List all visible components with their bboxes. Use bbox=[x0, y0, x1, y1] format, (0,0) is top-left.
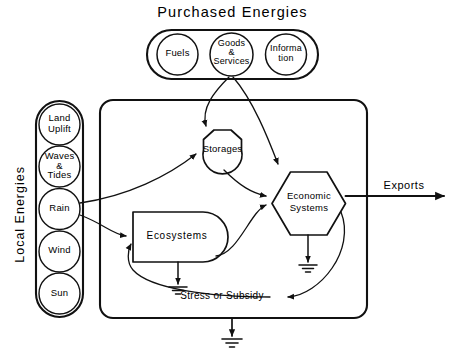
ground-symbol-economic-systems bbox=[299, 265, 317, 272]
flow-goods-to-economic-systems bbox=[233, 77, 278, 164]
information-circle bbox=[266, 34, 307, 75]
flow-goods-to-storages bbox=[205, 77, 229, 126]
sun-circle bbox=[39, 273, 80, 314]
ecosystems-producer-shape bbox=[133, 212, 228, 262]
flow-rain-to-storages bbox=[80, 154, 196, 203]
waves-and-tides-circle bbox=[39, 146, 80, 187]
purchased-energies-capsule bbox=[147, 30, 318, 79]
flow-storages-to-economic-systems bbox=[224, 170, 266, 196]
local-energies-group bbox=[36, 101, 83, 317]
ground-symbol-system bbox=[222, 339, 242, 347]
purchased-energies-group bbox=[147, 30, 318, 79]
flow-ecosystems-to-economic-systems bbox=[216, 205, 266, 256]
wind-circle bbox=[39, 231, 80, 272]
flow-stress-or-subsidy-to-ecosystems bbox=[128, 244, 270, 297]
flow-economic-systems-feedback bbox=[288, 212, 345, 297]
storages-tank-shape bbox=[203, 130, 242, 174]
rain-circle bbox=[39, 189, 80, 230]
fuels-circle bbox=[157, 34, 198, 75]
diagram-vector-layer bbox=[0, 0, 451, 359]
diagram-canvas: Purchased Energies Local Energies Fuels … bbox=[0, 0, 451, 359]
land-uplift-circle bbox=[39, 104, 80, 145]
local-energies-capsule bbox=[36, 101, 83, 317]
economic-systems-hexagon-shape bbox=[272, 172, 346, 235]
goods-and-services-circle bbox=[210, 33, 253, 76]
flow-rain-to-ecosystems bbox=[80, 215, 126, 236]
